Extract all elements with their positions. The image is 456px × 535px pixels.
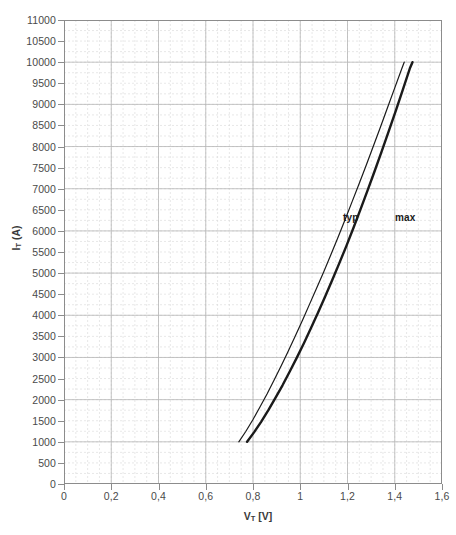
x-tick-mark (300, 484, 301, 490)
x-tick-mark (395, 484, 396, 490)
x-tick-mark (206, 484, 207, 490)
x-tick-label: 1,2 (340, 490, 355, 502)
y-axis-title: IT (A) (10, 208, 22, 268)
x-tick-label: 0,2 (104, 490, 119, 502)
x-axis-title-subscript: T (251, 514, 256, 523)
x-tick-mark (442, 484, 443, 490)
x-tick-label: 0,4 (151, 490, 166, 502)
x-tick-label: 1 (297, 490, 303, 502)
x-tick-mark (111, 484, 112, 490)
x-axis-title-unit: [V] (255, 510, 272, 522)
x-tick-mark (159, 484, 160, 490)
x-tick-label: 0,8 (246, 490, 261, 502)
x-tick-label: 1,6 (435, 490, 450, 502)
x-tick-mark (348, 484, 349, 490)
chart-root: 0500100015002000250030003500400045005000… (0, 0, 456, 535)
y-axis-title-base: I (10, 248, 22, 251)
x-tick-label: 0,6 (198, 490, 213, 502)
series-label-max: max (395, 212, 416, 223)
series-label-typ: typ (343, 212, 359, 223)
y-axis-title-subscript: T (14, 243, 23, 248)
x-tick-mark (64, 484, 65, 490)
x-tick-label: 0 (61, 490, 67, 502)
x-tick-label: 1,4 (387, 490, 402, 502)
x-axis-ticks: 00,20,40,60,811,21,41,6 (0, 0, 456, 535)
x-axis-title: VT [V] (0, 510, 456, 522)
x-tick-mark (253, 484, 254, 490)
x-axis-title-base: V (244, 510, 251, 522)
y-axis-title-unit: (A) (10, 226, 22, 244)
